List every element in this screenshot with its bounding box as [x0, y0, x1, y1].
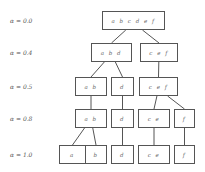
tree-edge [142, 30, 159, 43]
tree-edge [154, 96, 157, 109]
cluster-node: a b [75, 77, 107, 96]
tree-edge [93, 128, 96, 145]
tree-edge [73, 128, 85, 145]
tree-edge [112, 30, 126, 43]
tree-edge [91, 62, 104, 77]
alpha-level-label: α = 0.5 [10, 83, 32, 91]
alpha-level-label: α = 0.4 [10, 49, 32, 57]
cluster-node: c e f [140, 43, 178, 62]
alpha-level-label: α = 1.0 [10, 151, 32, 159]
cluster-node: d [111, 145, 134, 164]
cluster-node: d [111, 109, 134, 128]
alpha-level-label: α = 0.0 [10, 17, 32, 25]
cluster-node: a b c d e f [102, 11, 165, 30]
alpha-level-label: α = 0.8 [10, 115, 32, 123]
cluster-node: f [174, 145, 195, 164]
cluster-node: c e f [139, 77, 178, 96]
cluster-node: a b d [91, 43, 132, 62]
cluster-node: a b [75, 109, 107, 128]
cluster-node: c e [138, 109, 170, 128]
cluster-node: b [85, 145, 107, 164]
clustering-tree-diagram: α = 0.0a b c d e fα = 0.4a b dc e fα = 0… [0, 0, 205, 172]
cluster-node: a [59, 145, 86, 164]
cluster-node: f [174, 109, 195, 128]
cluster-node: d [111, 77, 134, 96]
tree-edge [115, 62, 122, 77]
cluster-node: c e [138, 145, 170, 164]
tree-edge [168, 96, 185, 109]
